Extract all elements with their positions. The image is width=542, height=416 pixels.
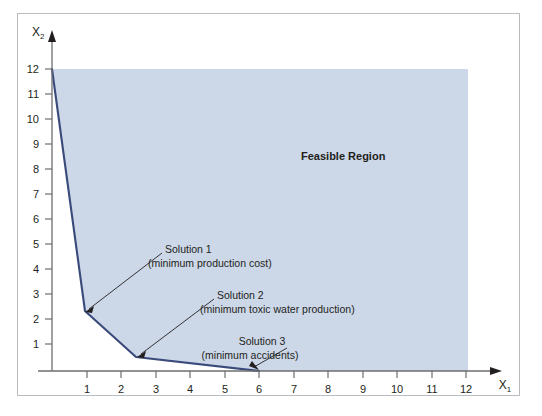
- x-tick-label: 6: [256, 383, 262, 395]
- x-tick-label: 8: [325, 383, 331, 395]
- x-tick-label: 12: [460, 383, 472, 395]
- x-axis-ticks: [87, 371, 466, 378]
- figure-frame: 1 2 3 4 5 6 7 8 9 10 11 12: [17, 13, 520, 396]
- y-tick-label: 12: [27, 63, 39, 75]
- x-axis-arrow-icon: [490, 367, 502, 375]
- x-tick-label: 11: [426, 383, 437, 395]
- y-tick-label: 10: [27, 113, 39, 125]
- y-tick-label: 7: [33, 188, 39, 200]
- y-tick-label: 4: [33, 263, 39, 275]
- y-tick-label: 2: [33, 313, 39, 325]
- y-axis-tick-labels: 1 2 3 4 5 6 7 8 9 10 11 12: [27, 63, 39, 350]
- y-axis-ticks: [45, 69, 52, 344]
- x-tick-label: 10: [391, 383, 403, 395]
- solution-2-subtitle: (minimum toxic water production): [200, 303, 355, 315]
- x-tick-label: 2: [118, 383, 124, 395]
- x-axis-tick-labels: 1 2 3 4 5 6 7 8 9 10 11 12: [84, 383, 472, 395]
- solution-1-subtitle: (minimum production cost): [148, 257, 272, 269]
- y-tick-label: 3: [33, 288, 39, 300]
- x-tick-label: 7: [291, 383, 297, 395]
- y-tick-label: 9: [33, 138, 39, 150]
- solution-3-subtitle: (minimum accidents): [202, 349, 299, 361]
- x-tick-label: 1: [84, 383, 90, 395]
- feasible-region-label: Feasible Region: [301, 150, 386, 162]
- x-tick-label: 5: [222, 383, 228, 395]
- y-tick-label: 1: [33, 338, 39, 350]
- feasible-region-chart: 1 2 3 4 5 6 7 8 9 10 11 12: [18, 14, 519, 395]
- y-tick-label: 8: [33, 163, 39, 175]
- x-axis-label: X1: [499, 378, 512, 394]
- y-tick-label: 5: [33, 238, 39, 250]
- y-tick-label: 6: [33, 213, 39, 225]
- y-axis-arrow-icon: [48, 30, 56, 42]
- solution-3-title: Solution 3: [239, 335, 286, 347]
- solution-1-title: Solution 1: [165, 243, 212, 255]
- y-axis-label: X2: [32, 25, 45, 41]
- x-tick-label: 9: [360, 383, 366, 395]
- solution-2-title: Solution 2: [217, 289, 264, 301]
- x-tick-label: 3: [153, 383, 159, 395]
- y-tick-label: 11: [28, 88, 39, 100]
- x-tick-label: 4: [187, 383, 193, 395]
- feasible-region-fill: [52, 69, 468, 371]
